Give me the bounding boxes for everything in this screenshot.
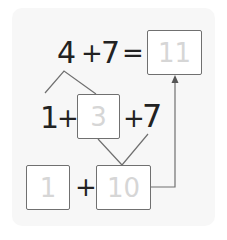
split-part2-box[interactable]: 3 [77, 94, 120, 139]
sum-box2[interactable]: 10 [96, 165, 151, 210]
equation-equals: = [122, 40, 144, 66]
answer-box[interactable]: 11 [147, 30, 202, 75]
equation-left: 4 [57, 38, 76, 68]
split-plus1: + [57, 105, 79, 131]
sum-box1[interactable]: 1 [26, 165, 70, 210]
arrow-head-icon [172, 75, 179, 83]
equation-right: 7 [101, 38, 120, 68]
equation-plus: + [81, 40, 103, 66]
sum-plus: + [75, 174, 97, 200]
split-addend: 7 [142, 100, 162, 132]
